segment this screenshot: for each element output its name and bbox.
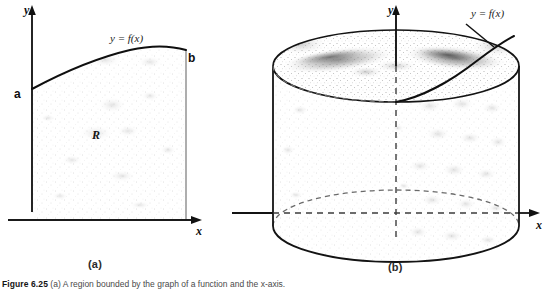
- figure-illustration-svg: y = f(x) a b R y x: [0, 0, 556, 290]
- figure-caption: Figure 6.25 (a) A region bounded by the …: [2, 279, 554, 289]
- region-label-r: R: [91, 128, 100, 142]
- panel-a-letter: (a): [88, 258, 102, 270]
- curve-label-panel-a: y = f(x): [109, 32, 143, 45]
- panel-b-y-axis-label: y: [386, 3, 394, 17]
- panel-a-y-axis-label: y: [22, 3, 30, 17]
- panel-b-x-axis-label: x: [535, 218, 542, 232]
- figure-caption-number: Figure 6.25: [2, 279, 48, 289]
- panel-b-group: y = f(x) y x: [232, 3, 542, 262]
- figure-caption-text: (a) A region bounded by the graph of a f…: [50, 279, 285, 289]
- point-label-a: a: [14, 87, 21, 101]
- panel-b-letter: (b): [388, 261, 403, 273]
- region-r-shading: [32, 47, 186, 220]
- point-label-b: b: [188, 51, 195, 65]
- curve-label-panel-b: y = f(x): [470, 7, 504, 20]
- figure-6-25: y = f(x) a b R y x: [0, 0, 556, 290]
- panel-a-x-axis-label: x: [195, 224, 202, 238]
- panel-a-group: y = f(x) a b R y x: [8, 3, 202, 238]
